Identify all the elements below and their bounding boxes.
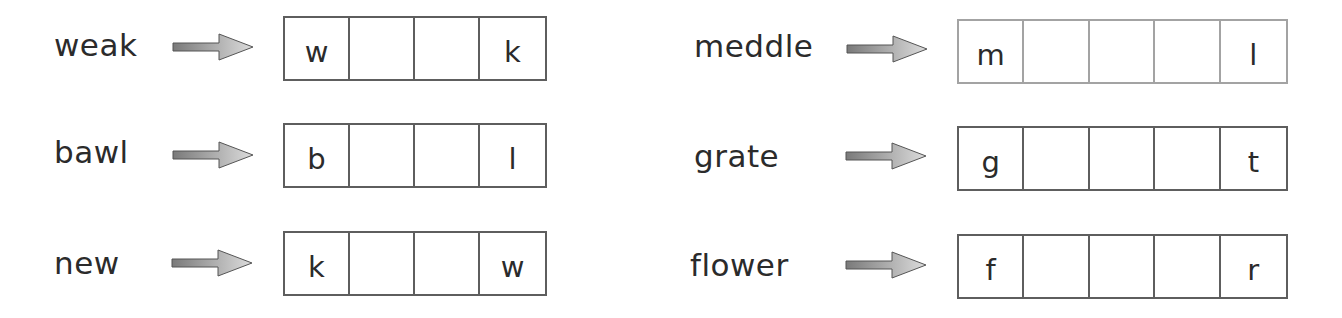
letter-cell: f [959, 236, 1024, 297]
letter-cell: k [480, 18, 545, 79]
letter-cell-blank[interactable] [1155, 21, 1220, 82]
right-arrow-icon [172, 141, 254, 169]
letter-cell: m [959, 21, 1024, 82]
right-arrow-icon [845, 251, 927, 279]
letter-cell-blank[interactable] [350, 18, 415, 79]
right-arrow-icon [171, 249, 253, 277]
letter-cell-blank[interactable] [1024, 128, 1089, 189]
letter-grid: w k [283, 16, 547, 81]
letter-cell: b [285, 125, 350, 186]
word-label: meddle [694, 31, 813, 62]
letter-cell-blank[interactable] [1090, 21, 1155, 82]
word-label: grate [694, 141, 779, 172]
letter-cell-blank[interactable] [1024, 236, 1089, 297]
letter-grid: k w [283, 231, 547, 296]
letter-cell: g [959, 128, 1024, 189]
letter-cell: r [1221, 236, 1286, 297]
letter-cell-blank[interactable] [350, 233, 415, 294]
word-label: new [54, 248, 120, 279]
right-arrow-icon [172, 33, 254, 61]
letter-cell-blank[interactable] [1024, 21, 1089, 82]
letter-cell: t [1221, 128, 1286, 189]
letter-cell: l [1221, 21, 1286, 82]
letter-cell-blank[interactable] [415, 125, 480, 186]
letter-cell: w [480, 233, 545, 294]
letter-grid: g t [957, 126, 1288, 191]
word-label: bawl [54, 137, 129, 168]
letter-cell: w [285, 18, 350, 79]
letter-grid: b l [283, 123, 547, 188]
letter-cell-blank[interactable] [415, 18, 480, 79]
right-arrow-icon [845, 142, 927, 170]
letter-cell: k [285, 233, 350, 294]
letter-cell-blank[interactable] [1155, 128, 1220, 189]
word-label: flower [690, 250, 789, 281]
letter-cell-blank[interactable] [1090, 236, 1155, 297]
letter-cell-blank[interactable] [1155, 236, 1220, 297]
letter-cell-blank[interactable] [415, 233, 480, 294]
word-label: weak [54, 30, 137, 61]
letter-grid: m l [957, 19, 1288, 84]
letter-grid: f r [957, 234, 1288, 299]
letter-cell: l [480, 125, 545, 186]
letter-cell-blank[interactable] [350, 125, 415, 186]
right-arrow-icon [846, 35, 928, 63]
letter-cell-blank[interactable] [1090, 128, 1155, 189]
